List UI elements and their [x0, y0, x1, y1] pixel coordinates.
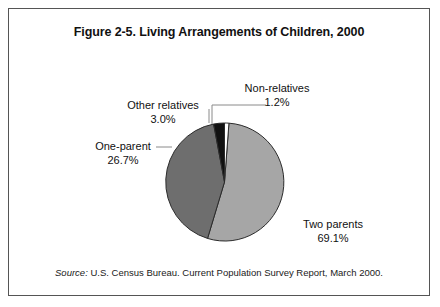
pie-label-non-relatives-value: 1.2%: [221, 96, 333, 110]
pie-chart: Non-relatives 1.2% Other relatives 3.0% …: [9, 9, 431, 297]
pie-label-two-parents-value: 69.1%: [274, 232, 392, 246]
pie-label-other-relatives: Other relatives 3.0%: [105, 99, 221, 126]
source-citation: U.S. Census Bureau. Current Population S…: [88, 267, 383, 278]
source-keyword: Source:: [55, 267, 88, 278]
pie-label-non-relatives: Non-relatives 1.2%: [221, 82, 333, 109]
pie-label-other-relatives-value: 3.0%: [105, 113, 221, 127]
pie-label-two-parents: Two parents 69.1%: [274, 218, 392, 245]
pie-label-two-parents-name: Two parents: [274, 218, 392, 232]
pie-label-one-parent-name: One-parent: [67, 140, 179, 154]
pie-label-non-relatives-name: Non-relatives: [221, 82, 333, 96]
pie-label-one-parent: One-parent 26.7%: [67, 140, 179, 167]
figure-frame: Figure 2-5. Living Arrangements of Child…: [8, 8, 430, 296]
pie-label-other-relatives-name: Other relatives: [105, 99, 221, 113]
pie-label-one-parent-value: 26.7%: [67, 154, 179, 168]
figure-source-note: Source: U.S. Census Bureau. Current Popu…: [9, 267, 429, 278]
pie-slices: [166, 123, 284, 241]
